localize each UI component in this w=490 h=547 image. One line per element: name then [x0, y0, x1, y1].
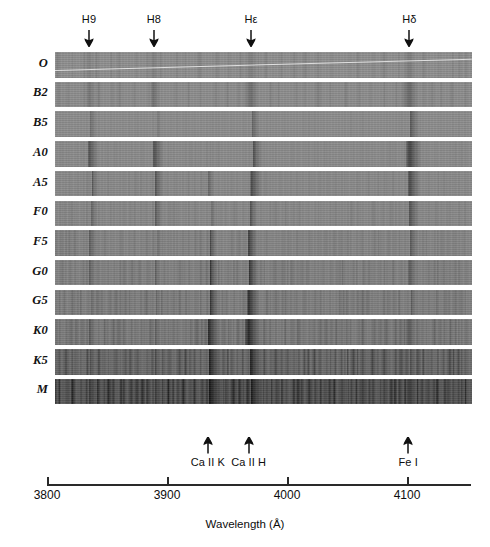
arrow-up-icon — [244, 437, 253, 454]
spectrum-absorption-lines — [55, 201, 472, 227]
arrow-down-icon — [85, 30, 94, 47]
spectral-class-label-m: M — [37, 383, 48, 395]
spectral-class-label-b5: B5 — [33, 116, 48, 128]
spectral-class-label-a0: A0 — [33, 146, 48, 158]
spectral-class-label-g0: G0 — [32, 265, 48, 277]
axis-tick-0 — [47, 477, 49, 484]
axis-title: Wavelength (Å) — [0, 518, 490, 530]
arrow-down-icon — [405, 30, 414, 47]
spectrum-strip-g0 — [55, 260, 472, 286]
spectrum-strip-f5 — [55, 230, 472, 256]
axis-tick-1 — [167, 477, 169, 484]
bottom-marker-label-0: Ca II K — [191, 457, 225, 468]
axis-tick-label-3: 4100 — [394, 489, 421, 501]
spectral-class-label-k0: K0 — [33, 324, 48, 336]
spectrum-strip-k5 — [55, 349, 472, 375]
spectrum-absorption-lines — [55, 230, 472, 256]
spectrum-absorption-lines — [55, 82, 472, 108]
spectrum-strip-g5 — [55, 290, 472, 316]
spectrum-strip-a0 — [55, 141, 472, 167]
arrow-down-icon — [247, 30, 256, 47]
spectrum-strip-m — [55, 379, 472, 405]
top-marker-label-2: Hε — [244, 14, 257, 25]
spectrum-absorption-lines — [55, 319, 472, 345]
top-marker-label-1: H8 — [147, 14, 161, 25]
axis-tick-label-1: 3900 — [154, 489, 181, 501]
wavelength-axis-line — [47, 484, 471, 486]
spectrum-absorption-lines — [55, 171, 472, 197]
spectra-strip-stack — [55, 52, 472, 433]
spectrum-absorption-lines — [55, 260, 472, 286]
spectral-class-label-f5: F5 — [33, 235, 48, 247]
spectral-class-label-b2: B2 — [33, 86, 48, 98]
spectrum-strip-o — [55, 52, 472, 78]
spectrum-strip-a5 — [55, 171, 472, 197]
spectral-class-label-a5: A5 — [33, 176, 48, 188]
spectrum-absorption-lines — [55, 349, 472, 375]
spectral-class-label-f0: F0 — [33, 205, 48, 217]
axis-tick-2 — [287, 477, 289, 484]
spectrum-absorption-lines — [55, 141, 472, 167]
top-marker-label-0: H9 — [82, 14, 96, 25]
spectrum-absorption-lines — [55, 290, 472, 316]
bottom-marker-label-1: Ca II H — [231, 457, 266, 468]
spectral-class-label-column: OB2B5A0A5F0F5G0G5K0K5M — [8, 50, 48, 432]
axis-tick-3 — [407, 477, 409, 484]
axis-tick-label-0: 3800 — [34, 489, 61, 501]
axis-tick-label-2: 4000 — [274, 489, 301, 501]
spectral-class-label-o: O — [39, 57, 48, 69]
spectral-class-label-k5: K5 — [33, 354, 48, 366]
spectrum-absorption-lines — [55, 379, 472, 405]
arrow-up-icon — [404, 437, 413, 454]
top-marker-label-3: Hδ — [402, 14, 416, 25]
spectral-classification-figure: H9H8HεHδ OB2B5A0A5F0F5G0G5K0K5M Ca II KC… — [0, 0, 490, 547]
spectral-class-label-g5: G5 — [32, 294, 48, 306]
spectrum-strip-k0 — [55, 319, 472, 345]
spectrum-strip-b2 — [55, 82, 472, 108]
spectrum-strip-f0 — [55, 201, 472, 227]
spectrum-absorption-lines — [55, 111, 472, 137]
spectrum-strip-b5 — [55, 111, 472, 137]
arrow-up-icon — [203, 437, 212, 454]
bottom-marker-label-2: Fe I — [399, 457, 418, 468]
arrow-down-icon — [149, 30, 158, 47]
